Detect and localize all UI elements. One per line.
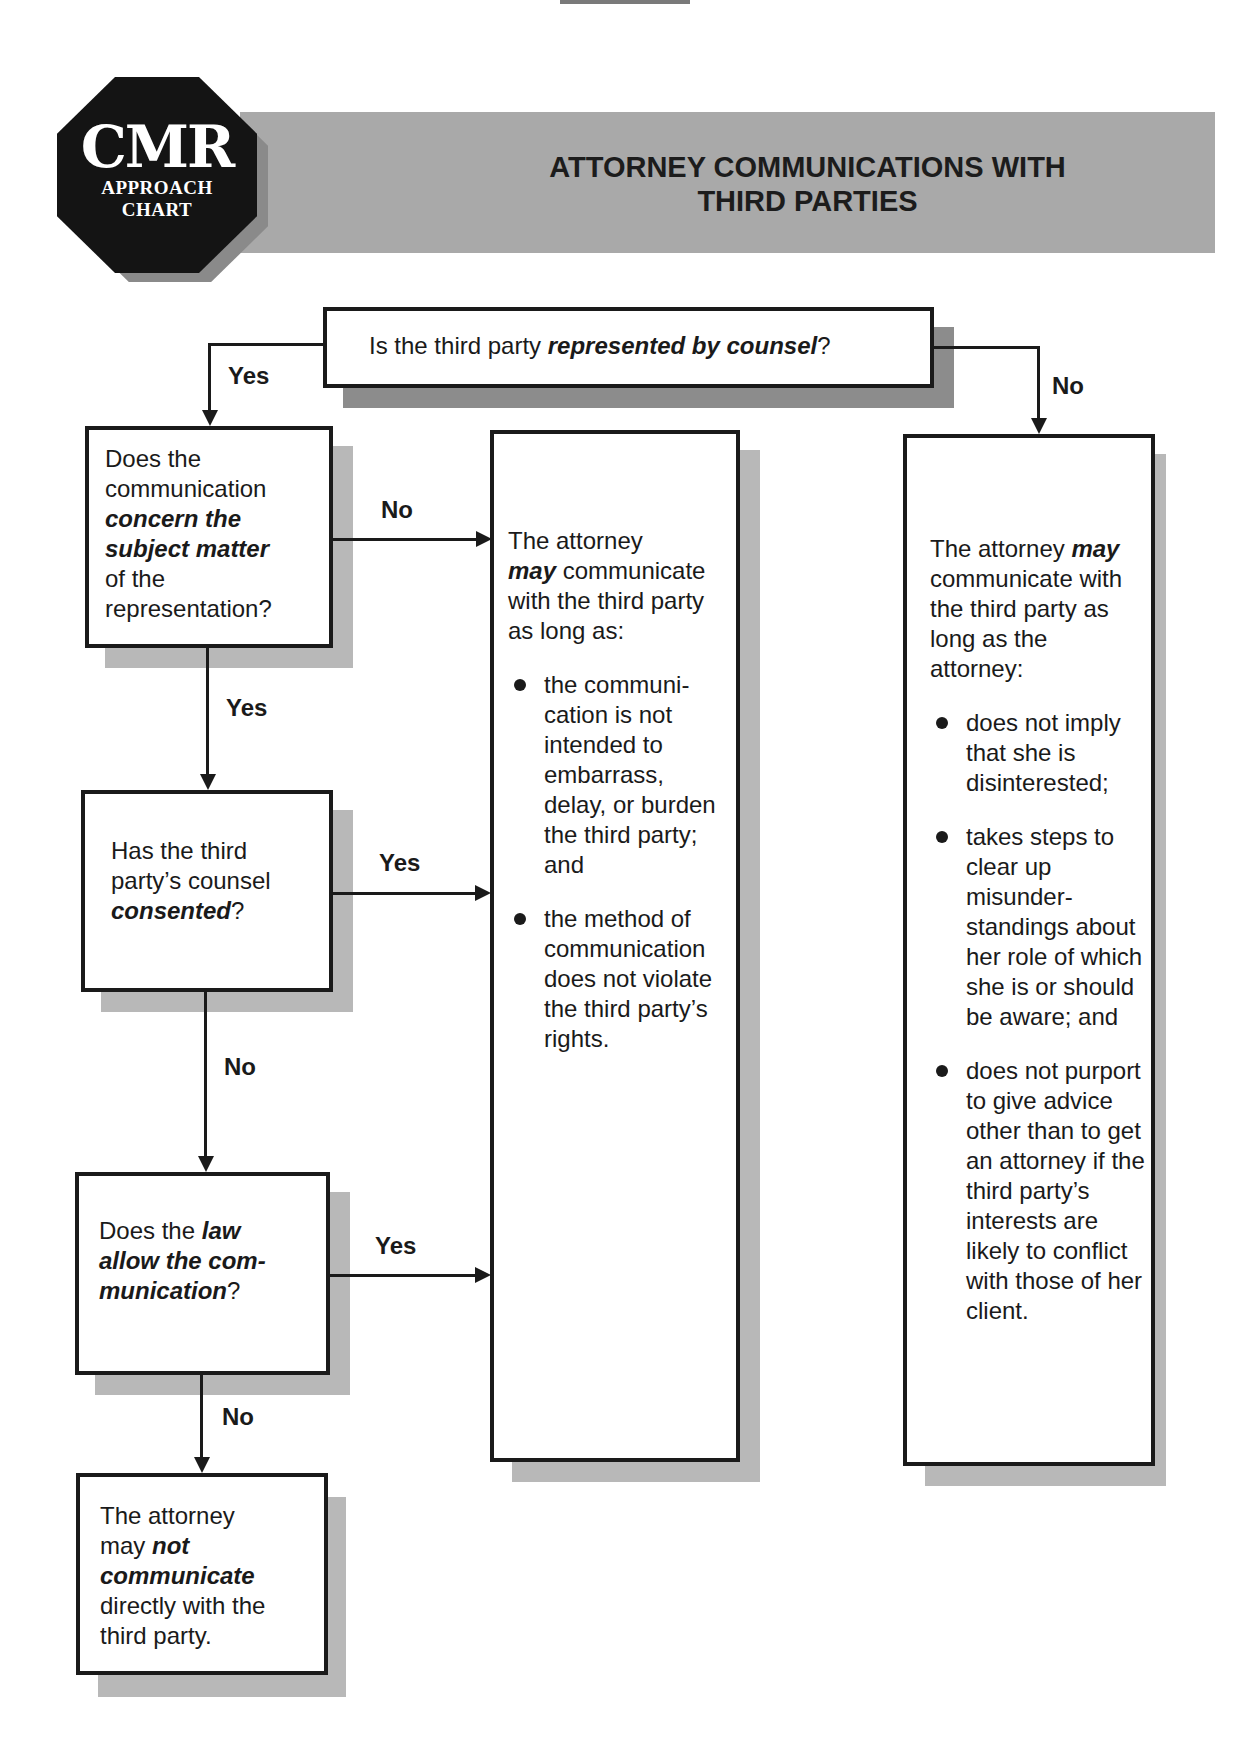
condition-item: does not purport to give advice other th… (930, 1056, 1145, 1326)
title-line-2: THIRD PARTIES (400, 184, 1215, 218)
label-subject-yes: Yes (226, 694, 267, 722)
condition-item: does not imply that she is disinterested… (930, 708, 1145, 798)
connector-line (200, 1375, 203, 1457)
connector-line (330, 1274, 475, 1277)
outcome-unrepresented-text: The attorney may communicate with the th… (930, 534, 1145, 1326)
connector-line (204, 992, 207, 1156)
arrow-right-icon (475, 885, 491, 901)
label-law-yes: Yes (375, 1232, 416, 1260)
condition-list: the communi-cation is not intended to em… (508, 670, 730, 1054)
connector-line (333, 892, 475, 895)
logo-main-text: CMR (57, 117, 257, 177)
arrow-down-icon (200, 774, 216, 790)
question-law-box: Does the law allow the com- munication? (75, 1172, 330, 1375)
question-subject-matter-box: Does the communication concern the subje… (85, 426, 333, 648)
question-law-text: Does the law allow the com- munication? (99, 1216, 266, 1306)
connector-line (208, 343, 324, 346)
arrow-down-icon (1031, 418, 1047, 434)
chart-title: ATTORNEY COMMUNICATIONS WITH THIRD PARTI… (400, 150, 1215, 218)
connector-line (1037, 346, 1040, 418)
label-consented-yes: Yes (379, 849, 420, 877)
page-top-mark (560, 0, 690, 4)
label-represented-yes: Yes (228, 362, 269, 390)
condition-item: the method of communication does not vio… (508, 904, 730, 1054)
cmr-logo-octagon: CMR APPROACH CHART (57, 77, 257, 273)
arrow-down-icon (194, 1457, 210, 1473)
question-represented-box: Is the third party represented by counse… (323, 307, 934, 388)
outcome-unrepresented-may-communicate-box: The attorney may communicate with the th… (903, 434, 1155, 1466)
question-consented-box: Has the third party’s counsel consented? (81, 790, 333, 992)
outcome-may-not-communicate-box: The attorney may not communicate directl… (76, 1473, 328, 1675)
condition-item: the communi-cation is not intended to em… (508, 670, 730, 880)
outcome-represented-text: The attorney may communicate with the th… (508, 526, 730, 1054)
arrow-down-icon (198, 1156, 214, 1172)
question-consented-text: Has the third party’s counsel consented? (111, 836, 271, 926)
title-line-1: ATTORNEY COMMUNICATIONS WITH (400, 150, 1215, 184)
logo-line-2: CHART (57, 199, 257, 221)
label-subject-no: No (381, 496, 413, 524)
condition-item: takes steps to clear up misunder-standin… (930, 822, 1145, 1032)
outcome-may-not-communicate-text: The attorney may not communicate directl… (100, 1501, 265, 1651)
outcome-represented-may-communicate-box: The attorney may communicate with the th… (490, 430, 740, 1462)
condition-list: does not imply that she is disinterested… (930, 708, 1145, 1326)
question-represented-text: Is the third party represented by counse… (369, 331, 831, 361)
label-represented-no: No (1052, 372, 1084, 400)
connector-line (934, 346, 1040, 349)
label-law-no: No (222, 1403, 254, 1431)
connector-line (333, 538, 478, 541)
connector-line (206, 648, 209, 774)
question-subject-matter-text: Does the communication concern the subje… (105, 444, 272, 624)
label-consented-no: No (224, 1053, 256, 1081)
arrow-right-icon (475, 1267, 491, 1283)
arrow-down-icon (202, 410, 218, 426)
connector-line (208, 343, 211, 413)
header-banner: ATTORNEY COMMUNICATIONS WITH THIRD PARTI… (240, 112, 1215, 253)
